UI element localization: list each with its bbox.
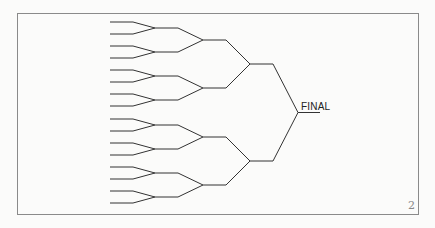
bracket-connector: [133, 197, 155, 203]
bracket-connector: [226, 40, 250, 64]
bracket-connector: [133, 52, 155, 58]
bracket-connector: [226, 137, 250, 161]
final-label: FINAL: [301, 101, 330, 112]
bracket-connector: [273, 64, 298, 113]
bracket-connector: [133, 173, 155, 179]
bracket-connector: [178, 137, 203, 149]
bracket-connector: [178, 76, 203, 88]
bracket-diagram: [0, 0, 435, 228]
bracket-connector: [178, 40, 203, 52]
bracket-connector: [178, 185, 203, 197]
bracket-connector: [133, 125, 155, 131]
bracket-connector: [226, 64, 250, 88]
bracket-connector: [133, 76, 155, 82]
bracket-connector: [133, 143, 155, 149]
bracket-connector: [133, 28, 155, 34]
bracket-connector: [273, 113, 298, 162]
bracket-connector: [133, 100, 155, 106]
bracket-connector: [178, 173, 203, 185]
bracket-connector: [133, 119, 155, 125]
bracket-connector: [178, 88, 203, 100]
bracket-connector: [133, 167, 155, 173]
bracket-connector: [226, 161, 250, 185]
bracket-connector: [133, 22, 155, 28]
page-number: 2: [408, 199, 415, 212]
bracket-connector: [133, 94, 155, 100]
bracket-connector: [178, 28, 203, 40]
bracket-connector: [133, 149, 155, 155]
bracket-connector: [133, 191, 155, 197]
bracket-connector: [133, 70, 155, 76]
bracket-connector: [133, 46, 155, 52]
bracket-connector: [178, 125, 203, 137]
